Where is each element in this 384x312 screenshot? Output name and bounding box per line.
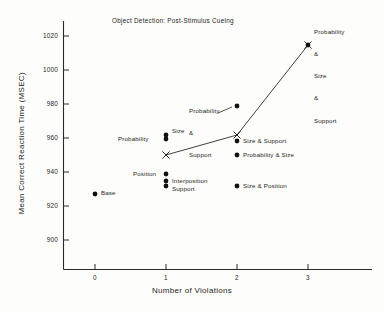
annotation-probability-size-support: Probability & Size & Support — [314, 13, 345, 139]
x-tick-label-3: 3 — [298, 274, 318, 281]
annotation-pss-line4: & — [314, 94, 345, 101]
annotation-size-support: Size & Support — [243, 138, 286, 145]
y-tick-label-920: 920 — [30, 202, 58, 209]
point-base — [93, 192, 98, 197]
annotation-probability-support-line2: & — [189, 129, 220, 136]
annotation-pss-line1: Probability — [314, 28, 345, 35]
annotation-probability-support-line3: Support — [189, 151, 220, 158]
trend-marker-x-1 — [163, 152, 170, 159]
x-tick-label-2: 2 — [227, 274, 247, 281]
x-tick-label-1: 1 — [156, 274, 176, 281]
x-axis-ticks — [95, 264, 308, 270]
annotation-probability-support-line1: Probability — [189, 107, 220, 114]
point-support — [164, 184, 169, 189]
annotation-probability-support: Probability & Support — [189, 92, 220, 173]
leader-line-probability-support — [218, 107, 232, 113]
point-interposition — [164, 179, 169, 184]
mean-trend-line — [166, 45, 308, 155]
point-position — [164, 172, 169, 177]
y-tick-label-980: 980 — [30, 100, 58, 107]
annotation-position: Position — [133, 171, 156, 178]
annotation-pss-line3: Size — [314, 72, 345, 79]
point-probability-size-support — [306, 43, 311, 48]
x-tick-label-0: 0 — [85, 274, 105, 281]
y-tick-label-1020: 1020 — [30, 32, 58, 39]
annotation-probability: Probability — [118, 136, 149, 143]
annotation-support: Support — [172, 186, 195, 193]
annotation-interposition: Interposition — [172, 178, 208, 185]
y-axis-title: Mean Correct Reaction Time (MSEC) — [19, 33, 26, 253]
chart-title: Object Detection: Post-Stimulus Cueing — [112, 18, 234, 25]
y-tick-label-940: 940 — [30, 168, 58, 175]
chart-figure: Object Detection: Post-Stimulus Cueing M… — [0, 0, 384, 312]
x-axis-title: Number of Violations — [0, 288, 384, 295]
annotation-size-position: Size & Position — [243, 183, 287, 190]
trend-marker-x-2 — [234, 132, 241, 139]
point-size-position — [235, 184, 240, 189]
y-tick-label-960: 960 — [30, 134, 58, 141]
point-probability-support — [235, 104, 240, 109]
annotation-base: Base — [101, 190, 116, 197]
point-size — [164, 133, 169, 138]
point-probability-size — [235, 153, 240, 158]
annotation-probability-size: Probability & Size — [243, 152, 294, 159]
y-tick-label-900: 900 — [30, 236, 58, 243]
annotation-size: Size — [172, 128, 185, 135]
y-axis-ticks — [64, 36, 70, 240]
annotation-pss-line2: & — [314, 50, 345, 57]
y-tick-label-1000: 1000 — [30, 66, 58, 73]
point-size-support — [235, 139, 240, 144]
annotation-pss-line5: Support — [314, 117, 345, 124]
